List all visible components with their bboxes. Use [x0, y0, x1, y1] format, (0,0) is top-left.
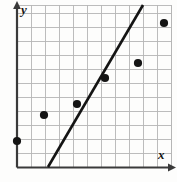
- data-point-marker: [13, 137, 21, 145]
- plot-canvas: [0, 0, 177, 182]
- data-point-marker: [73, 100, 81, 108]
- data-point-marker: [134, 59, 142, 67]
- x-axis-label: x: [158, 148, 165, 161]
- data-point-marker: [40, 111, 48, 119]
- data-point-marker: [101, 74, 109, 82]
- y-axis-label: y: [21, 3, 27, 16]
- data-point-marker: [160, 19, 168, 27]
- scatter-plot-figure: y x: [0, 0, 177, 182]
